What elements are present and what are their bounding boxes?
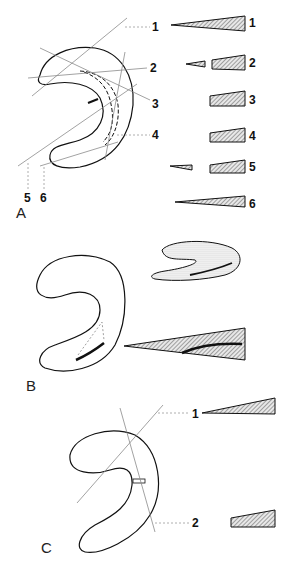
panel-c-cross-sections — [202, 398, 275, 527]
section-label-4: 4 — [249, 130, 256, 142]
panel-a-cross-sections — [170, 16, 245, 207]
section-6 — [175, 196, 245, 207]
line-label-a5: 5 — [24, 192, 31, 204]
line-label-a4: 4 — [152, 129, 159, 141]
section-2b — [212, 55, 245, 70]
line-label-a3: 3 — [152, 98, 159, 110]
section-3 — [210, 91, 245, 106]
section-label-6: 6 — [249, 198, 256, 210]
section-label-2: 2 — [249, 57, 256, 69]
section-5b — [210, 160, 245, 173]
panel-b-3d-meniscus — [152, 241, 240, 280]
diagram-canvas — [0, 0, 287, 567]
section-2a — [186, 61, 205, 67]
section-label-3: 3 — [249, 94, 256, 106]
section-label-5: 5 — [249, 161, 256, 173]
panel-a-meniscus — [38, 47, 133, 167]
line-label-a6: 6 — [40, 192, 47, 204]
panel-label-b: B — [26, 378, 36, 393]
panel-c-meniscus — [70, 431, 159, 552]
panel-b-meniscus — [37, 256, 125, 371]
panel-label-c: C — [41, 540, 52, 555]
line-label-a1: 1 — [152, 21, 159, 33]
section-label-1: 1 — [249, 17, 256, 29]
line-label-c2: 2 — [192, 517, 199, 529]
panel-c-leader-lines — [155, 413, 190, 523]
section-4 — [210, 128, 245, 142]
section-c1 — [202, 398, 275, 414]
panel-a-leader-lines — [28, 27, 150, 190]
line-label-a2: 2 — [150, 62, 157, 74]
panel-a-section-lines — [18, 18, 150, 166]
panel-b-enlarged-section — [124, 328, 245, 360]
section-1 — [171, 16, 245, 31]
section-c2 — [231, 510, 275, 527]
panel-label-a: A — [16, 205, 26, 220]
line-label-c1: 1 — [192, 408, 199, 420]
section-5a — [170, 165, 192, 170]
